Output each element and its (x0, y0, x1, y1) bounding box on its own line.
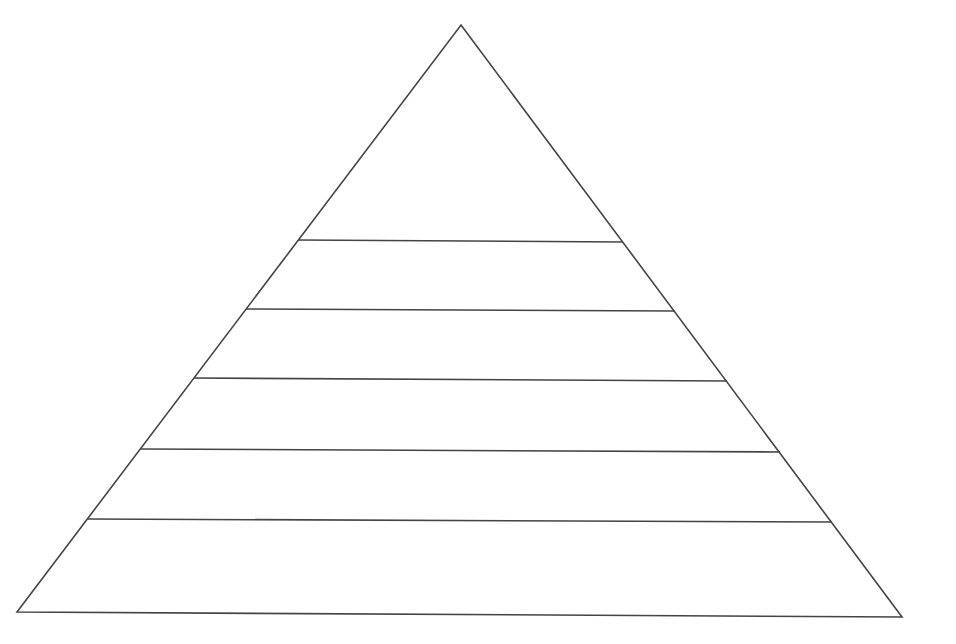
pyramid-outline (17, 25, 902, 617)
pyramid-diagram (0, 0, 956, 644)
